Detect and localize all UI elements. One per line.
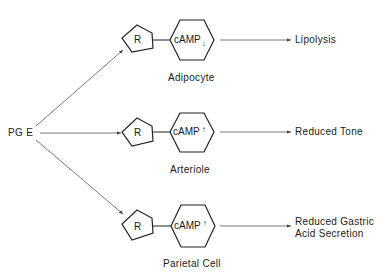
- receptor-arteriole: R: [122, 118, 153, 146]
- receptor-parietal: R: [122, 210, 153, 240]
- camp-parietal: cAMP↑: [171, 205, 215, 247]
- camp-down-icon: ↓: [202, 39, 206, 48]
- svg-text:R: R: [134, 221, 141, 232]
- cell-label-arteriole: Arteriole: [170, 164, 210, 175]
- receptor-adipocyte: R: [122, 25, 153, 52]
- svg-text:cAMP↑: cAMP↑: [174, 219, 207, 231]
- svg-text:cAMP↓: cAMP↓: [174, 34, 206, 48]
- effect-gastric-line1: Reduced Gastric: [295, 216, 374, 227]
- cell-label-parietal: Parietal Cell: [163, 258, 221, 269]
- svg-text:cAMP↑: cAMP↑: [173, 125, 206, 137]
- camp-up-icon: ↑: [203, 219, 207, 228]
- cell-label-adipocyte: Adipocyte: [168, 72, 215, 83]
- receptor-label: R: [134, 34, 141, 45]
- arrow-to-adipocyte: [36, 50, 123, 126]
- camp-up-icon: ↑: [202, 125, 206, 134]
- effect-lipolysis: Lipolysis: [295, 34, 336, 45]
- camp-adipocyte: cAMP↓: [170, 20, 214, 60]
- effect-reduced-tone: Reduced Tone: [295, 126, 363, 137]
- arrow-to-parietal: [36, 140, 123, 214]
- effect-gastric-line2: Acid Secretion: [295, 228, 364, 239]
- source-label: PG E: [8, 127, 33, 138]
- camp-arteriole: cAMP↑: [170, 113, 214, 152]
- svg-text:R: R: [134, 127, 141, 138]
